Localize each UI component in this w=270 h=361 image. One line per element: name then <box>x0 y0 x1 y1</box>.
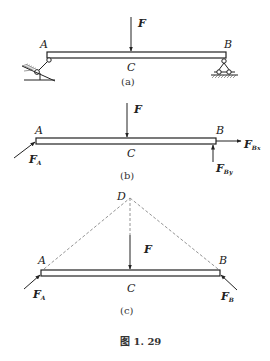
label-fa: FA <box>28 153 42 166</box>
line-bd <box>130 198 218 269</box>
label-d: D <box>116 190 126 203</box>
left-support-icon <box>22 58 55 81</box>
statics-diagram: F A B C <box>0 0 270 361</box>
caption-a: (a) <box>121 76 135 87</box>
panel-a: F A B C <box>22 17 238 87</box>
label-fbx: FBx <box>243 138 261 151</box>
label-a: A <box>37 254 46 267</box>
label-f: F <box>133 103 143 116</box>
panel-b: F A B C FA FBx FBy (b) <box>14 103 261 181</box>
label-f: F <box>143 243 153 256</box>
label-b: B <box>215 124 224 137</box>
label-a: A <box>34 124 43 137</box>
label-f: F <box>137 17 147 30</box>
caption-c: (c) <box>120 305 134 316</box>
label-c: C <box>127 282 136 295</box>
beam <box>36 138 216 144</box>
label-c: C <box>127 61 136 74</box>
force-arrow-fb <box>221 275 237 290</box>
figure-caption: 图 1. 29 <box>120 336 161 347</box>
label-b: B <box>218 254 227 267</box>
label-fa: FA <box>32 288 46 301</box>
caption-b: (b) <box>120 170 134 181</box>
label-fby: FBy <box>215 162 233 176</box>
line-ad <box>44 198 130 269</box>
force-arrow-fa <box>24 275 40 289</box>
beam <box>47 52 226 58</box>
label-c: C <box>127 147 136 160</box>
label-a: A <box>39 38 48 51</box>
beam <box>41 270 220 276</box>
label-b: B <box>223 38 232 51</box>
right-support-icon <box>211 59 238 78</box>
panel-c: D F A B C FA FB (c) <box>24 190 237 316</box>
label-fb: FB <box>220 290 234 303</box>
